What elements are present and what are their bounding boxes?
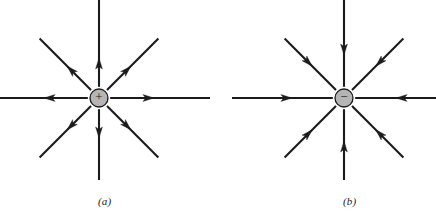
charge-panel-b: − <box>232 0 436 180</box>
field-line-down-left-stroke <box>40 106 92 158</box>
field-line-canvas: +− <box>0 0 436 217</box>
field-line-down <box>96 109 103 180</box>
field-line-up-left-stroke <box>40 39 92 91</box>
electric-field-figure: +− (a) (b) <box>0 0 436 217</box>
field-line-left <box>232 95 333 102</box>
panel-caption-a: (a) <box>98 195 111 207</box>
field-line-up-left <box>40 39 92 91</box>
field-line-down <box>341 109 348 180</box>
field-line-up-right-stroke <box>107 39 159 91</box>
field-line-down-left <box>40 106 92 158</box>
field-line-right <box>110 95 210 102</box>
panel-caption-b: (b) <box>343 195 356 207</box>
field-line-up-right <box>352 39 404 91</box>
field-line-up <box>96 0 103 87</box>
point-charge-b: − <box>333 87 355 109</box>
field-line-right <box>355 95 436 102</box>
field-line-down-right <box>107 106 159 158</box>
field-line-left <box>0 95 88 102</box>
field-line-down-left <box>285 106 337 158</box>
minus-sign: − <box>340 89 347 104</box>
field-line-up-right <box>107 39 159 91</box>
field-line-down-right <box>352 106 404 158</box>
charge-panel-a: + <box>0 0 210 180</box>
field-line-up-left <box>285 39 337 91</box>
plus-sign: + <box>95 89 102 104</box>
point-charge-a: + <box>88 87 110 109</box>
field-line-down-right-stroke <box>107 106 159 158</box>
field-line-up <box>341 0 348 87</box>
